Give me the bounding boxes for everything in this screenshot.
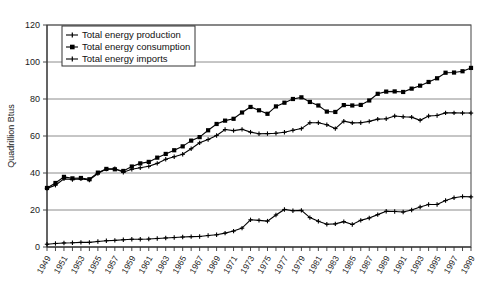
y-axis-title: Quadrillion Btus [6,104,16,168]
series-1-point-2 [62,175,66,179]
series-1-point-10 [130,164,134,168]
ytick-label-100: 100 [25,57,40,67]
series-1-point-7 [104,167,108,171]
series-1-point-3 [70,176,74,180]
series-1-point-11 [138,161,142,165]
legend-square-marker-1 [70,45,75,50]
series-1-point-40 [384,90,388,94]
ytick-label-120: 120 [25,20,40,30]
xtick-label-1987: 1987 [357,254,375,276]
series-1-point-8 [113,167,117,171]
series-1-point-34 [333,110,337,114]
series-1-point-12 [147,160,151,164]
series-1-point-22 [231,117,235,121]
series-1-point-39 [376,92,380,96]
ytick-label-20: 20 [30,205,40,215]
xtick-label-1959: 1959 [119,254,137,276]
ytick-label-80: 80 [30,94,40,104]
xtick-label-1977: 1977 [272,254,290,276]
xtick-label-1975: 1975 [255,254,273,276]
series-line-1 [47,68,471,188]
legend-label-2: Total energy imports [82,53,168,64]
xtick-label-1993: 1993 [408,254,426,276]
series-1-point-49 [460,69,464,73]
series-1-point-33 [325,109,329,113]
series-1-point-19 [206,128,210,132]
series-1-point-45 [427,80,431,84]
series-1-point-13 [155,156,159,160]
xtick-label-1969: 1969 [204,254,222,276]
series-1-point-48 [452,70,456,74]
xtick-label-1971: 1971 [221,254,239,276]
series-1-point-16 [181,144,185,148]
series-1-point-27 [274,104,278,108]
series-1-point-36 [350,103,354,107]
ytick-label-40: 40 [30,168,40,178]
series-1-point-0 [45,186,49,190]
series-1-point-6 [96,171,100,175]
xtick-label-1961: 1961 [136,254,154,276]
series-1-point-4 [79,176,83,180]
ytick-label-0: 0 [35,242,40,252]
series-1-point-20 [215,122,219,126]
series-1-point-28 [282,101,286,105]
series-1-point-43 [410,87,414,91]
series-1-point-37 [359,103,363,107]
xtick-label-1953: 1953 [69,254,87,276]
xtick-label-1949: 1949 [35,254,53,276]
series-1-point-5 [87,177,91,181]
series-1-point-25 [257,108,261,112]
legend-label-1: Total energy consumption [82,41,190,52]
ytick-label-60: 60 [30,131,40,141]
series-1-point-50 [469,66,473,70]
series-1-point-23 [240,110,244,114]
line-chart: 0204060801001201949195119531955195719591… [0,0,495,286]
series-1-point-47 [443,71,447,75]
series-1-point-42 [401,90,405,94]
xtick-label-1989: 1989 [374,254,392,276]
series-1-point-35 [342,103,346,107]
xtick-label-1965: 1965 [170,254,188,276]
xtick-label-1973: 1973 [238,254,256,276]
series-1-point-26 [265,112,269,116]
series-1-point-17 [189,139,193,143]
xtick-label-1955: 1955 [85,254,103,276]
chart-canvas: 0204060801001201949195119531955195719591… [0,0,495,286]
series-line-0 [47,113,471,188]
xtick-label-1981: 1981 [306,254,324,276]
series-1-point-38 [367,98,371,102]
series-1-point-21 [223,119,227,123]
series-1-point-32 [316,103,320,107]
xtick-label-1979: 1979 [289,254,307,276]
xtick-label-1983: 1983 [323,254,341,276]
series-1-point-1 [53,181,57,185]
xtick-label-1997: 1997 [442,254,460,276]
series-1-point-18 [198,135,202,139]
series-1-point-30 [299,95,303,99]
series-1-point-24 [248,105,252,109]
xtick-label-1957: 1957 [102,254,120,276]
series-1-point-41 [393,89,397,93]
xtick-label-1999: 1999 [459,254,477,276]
xtick-label-1963: 1963 [153,254,171,276]
series-1-point-44 [418,84,422,88]
series-1-point-46 [435,76,439,80]
series-1-point-9 [121,169,125,173]
series-1-point-31 [308,100,312,104]
xtick-label-1951: 1951 [52,254,70,276]
series-1-point-29 [291,97,295,101]
series-1-point-14 [164,152,168,156]
legend-label-0: Total energy production [82,29,181,40]
xtick-label-1967: 1967 [187,254,205,276]
xtick-label-1995: 1995 [425,254,443,276]
series-1-point-15 [172,148,176,152]
xtick-label-1991: 1991 [391,254,409,276]
xtick-label-1985: 1985 [340,254,358,276]
